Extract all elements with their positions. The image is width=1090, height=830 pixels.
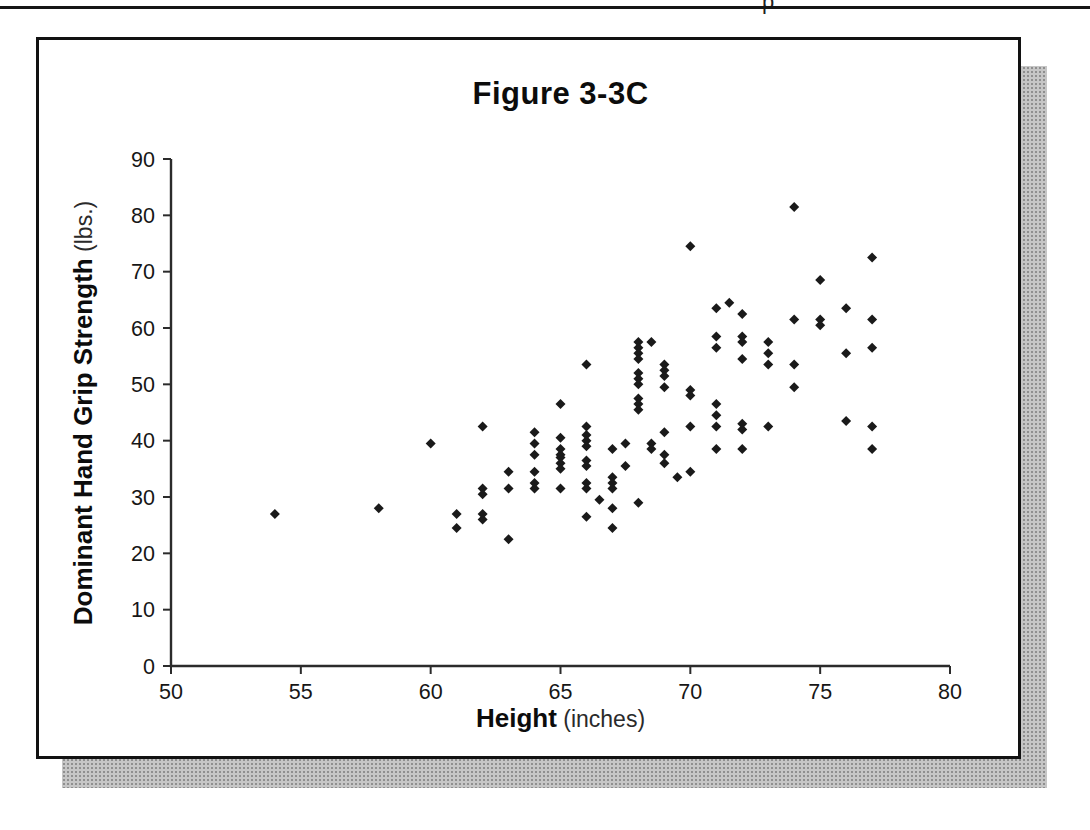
data-point <box>504 467 514 477</box>
data-point <box>711 331 721 341</box>
data-point <box>478 489 488 499</box>
data-point <box>504 534 514 544</box>
y-tick-label: 30 <box>131 486 155 510</box>
y-tick-label: 0 <box>143 655 155 679</box>
x-tick-label: 65 <box>549 680 573 704</box>
data-point <box>530 450 540 460</box>
x-axis-label-bold: Height <box>476 703 557 733</box>
data-point <box>711 444 721 454</box>
y-tick-label: 40 <box>131 429 155 453</box>
data-point <box>581 441 591 451</box>
data-point <box>556 464 566 474</box>
scatter-plot: 010203040506070809050556065707580 <box>39 40 1018 756</box>
data-point <box>789 315 799 325</box>
data-point <box>867 315 877 325</box>
data-point <box>763 422 773 432</box>
data-point <box>478 422 488 432</box>
y-tick-label: 10 <box>131 598 155 622</box>
x-axis-label: Height (inches) <box>171 703 950 734</box>
data-point <box>530 484 540 494</box>
data-point <box>763 360 773 370</box>
data-point <box>841 416 851 426</box>
figure-panel: Figure 3-3C 0102030405060708090505560657… <box>36 37 1021 759</box>
data-point <box>763 348 773 358</box>
data-point <box>607 523 617 533</box>
x-tick-label: 70 <box>678 680 702 704</box>
data-point <box>867 444 877 454</box>
x-tick-label: 60 <box>419 680 443 704</box>
scatter-canvas: 010203040506070809050556065707580 <box>39 40 1018 756</box>
data-point <box>620 438 630 448</box>
data-point <box>556 484 566 494</box>
data-point <box>789 360 799 370</box>
scanned-page: p Figure 3-3C 01020304050607080905055606… <box>0 0 1090 830</box>
data-point <box>737 337 747 347</box>
data-point <box>270 509 280 519</box>
data-point <box>711 399 721 409</box>
data-point <box>867 253 877 263</box>
data-point <box>841 303 851 313</box>
data-point <box>594 495 604 505</box>
y-tick-label: 90 <box>131 148 155 172</box>
data-point <box>841 348 851 358</box>
data-point <box>530 438 540 448</box>
x-tick-label: 75 <box>808 680 832 704</box>
data-point <box>711 343 721 353</box>
data-point <box>556 399 566 409</box>
y-tick-label: 80 <box>131 204 155 228</box>
data-point <box>737 309 747 319</box>
data-point <box>659 458 669 468</box>
y-axis-label-units: (lbs.) <box>71 201 97 259</box>
data-point <box>607 484 617 494</box>
x-tick-label: 50 <box>159 680 183 704</box>
data-point <box>504 484 514 494</box>
data-point <box>867 343 877 353</box>
data-point <box>815 320 825 330</box>
data-point <box>711 303 721 313</box>
data-point <box>659 427 669 437</box>
y-axis-label: Dominant Hand Grip Strength (lbs.) <box>68 113 102 713</box>
y-tick-label: 50 <box>131 373 155 397</box>
data-point <box>659 371 669 381</box>
data-point <box>685 241 695 251</box>
data-point <box>711 422 721 432</box>
data-point <box>633 379 643 389</box>
data-point <box>633 354 643 364</box>
data-point <box>581 360 591 370</box>
data-point <box>478 515 488 525</box>
y-tick-label: 20 <box>131 542 155 566</box>
data-point <box>556 433 566 443</box>
data-point <box>711 410 721 420</box>
data-point <box>633 405 643 415</box>
data-point <box>763 337 773 347</box>
data-point <box>607 503 617 513</box>
data-point <box>737 424 747 434</box>
data-point <box>789 202 799 212</box>
data-point <box>530 467 540 477</box>
data-point <box>737 444 747 454</box>
data-point <box>530 427 540 437</box>
data-point <box>646 337 656 347</box>
data-point <box>815 275 825 285</box>
data-point <box>646 444 656 454</box>
data-point <box>452 523 462 533</box>
data-point <box>581 461 591 471</box>
data-point <box>452 509 462 519</box>
y-tick-label: 60 <box>131 317 155 341</box>
data-point <box>789 382 799 392</box>
data-point <box>374 503 384 513</box>
y-axis-label-bold: Dominant Hand Grip Strength <box>68 258 98 625</box>
data-point <box>426 438 436 448</box>
data-point <box>581 512 591 522</box>
y-tick-label: 70 <box>131 260 155 284</box>
data-point <box>620 461 630 471</box>
data-point <box>607 444 617 454</box>
x-tick-label: 80 <box>938 680 962 704</box>
data-point <box>672 472 682 482</box>
data-point <box>724 298 734 308</box>
data-point <box>659 382 669 392</box>
page-top-rule <box>0 6 1090 9</box>
x-tick-label: 55 <box>289 680 313 704</box>
data-point <box>867 422 877 432</box>
axis-lines <box>171 159 950 666</box>
